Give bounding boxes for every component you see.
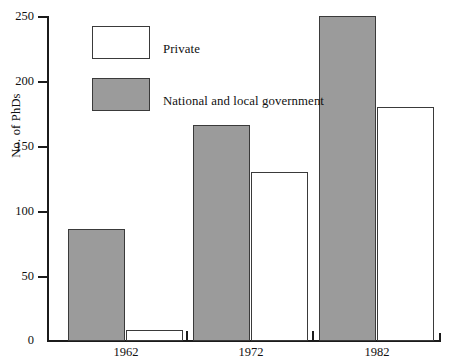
legend-swatch-government [92,78,150,111]
y-tick-50 [38,276,48,278]
x-tick-separator-1 [186,331,188,341]
y-tick-label-150: 150 [0,139,34,154]
legend-label-government: National and local government [163,94,324,109]
y-axis-line [47,16,49,341]
bar-chart: No. of PhDs 250 200 150 100 50 0 1962 19… [0,0,451,364]
y-tick-label-50: 50 [0,269,34,284]
x-tick-label-1962: 1962 [96,345,156,360]
bar-1982-private [377,107,434,341]
y-tick-label-250: 250 [0,9,34,24]
x-tick-separator-2 [312,331,314,341]
y-axis-title: No. of PhDs [9,76,24,176]
x-tick-label-1982: 1982 [347,345,407,360]
bar-1972-private [251,172,308,341]
y-tick-200 [38,81,48,83]
legend-swatch-private [92,26,150,59]
y-tick-250 [38,16,48,18]
bar-1962-private [126,330,183,341]
x-tick-end [439,333,441,341]
x-tick-label-1972: 1972 [221,345,281,360]
legend-label-private: Private [163,42,200,57]
bar-1972-government [193,125,250,341]
y-tick-label-200: 200 [0,74,34,89]
bar-1982-government [319,16,376,341]
y-tick-label-100: 100 [0,204,34,219]
y-tick-150 [38,146,48,148]
bar-1962-government [68,229,125,341]
y-tick-100 [38,211,48,213]
y-tick-label-0: 0 [0,333,34,348]
